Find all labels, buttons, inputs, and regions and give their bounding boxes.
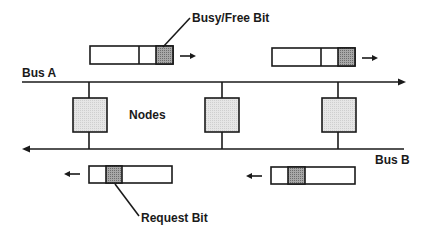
arrow-right-icon xyxy=(398,79,406,86)
request-bit xyxy=(106,166,122,183)
nodes-label: Nodes xyxy=(129,108,166,122)
node-2 xyxy=(205,82,239,149)
request-bit-label: Request Bit xyxy=(141,211,208,225)
arrow-left-icon xyxy=(246,173,262,179)
dqdb-bus-diagram: Busy/Free Bit Bus A Bus B Nodes xyxy=(0,0,428,237)
bus-b-label: Bus B xyxy=(375,153,410,167)
bus-a xyxy=(22,79,406,86)
packet-bus-b-1 xyxy=(89,166,172,183)
request-bit xyxy=(288,167,305,184)
bus-b xyxy=(22,146,404,153)
arrow-right-icon xyxy=(180,53,196,59)
node-1 xyxy=(73,82,107,149)
arrow-left-icon xyxy=(64,171,80,177)
packet-frame xyxy=(89,166,172,183)
request-bit-pointer xyxy=(115,184,139,216)
packet-bus-a-1 xyxy=(90,46,173,64)
packet-frame xyxy=(271,167,355,184)
bus-a-label: Bus A xyxy=(22,66,57,80)
busy-free-bit xyxy=(156,46,173,64)
arrow-right-icon xyxy=(362,55,378,61)
busy-free-bit xyxy=(338,48,355,66)
packet-bus-a-2 xyxy=(272,48,355,66)
packet-bus-b-2 xyxy=(271,167,355,184)
node-3 xyxy=(322,82,356,149)
busy-free-pointer xyxy=(163,18,190,47)
busy-free-bit-label: Busy/Free Bit xyxy=(192,11,269,25)
arrow-left-icon xyxy=(22,146,30,153)
